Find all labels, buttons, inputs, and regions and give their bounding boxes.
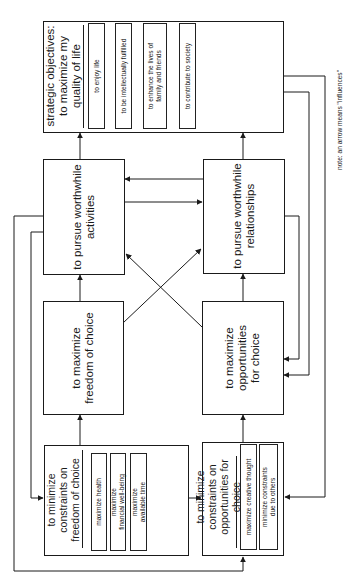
opportunities-for-choice-label: to maximize opportunities for choice (223, 301, 263, 415)
arrow-opportunities-to-activities (126, 254, 202, 327)
objective-enhance-lives-label: to enhance the lives of family and frien… (147, 26, 162, 126)
constraints-opportunities-title: to minimize constraints on opportunities… (194, 444, 242, 550)
relationships-label: to pursue worthwhile relationships (231, 158, 257, 274)
constraint-financial-wellbeing-label: maximize financial well-being (110, 455, 125, 549)
activities-label: to pursue worthwhile activities (71, 159, 97, 275)
arrow-activities-to-constraints-freedom (31, 232, 43, 498)
arrow-relationships-to-opportunities (284, 216, 299, 359)
arrow-strategic-to-opportunities (283, 92, 309, 375)
constraint-available-time-label: maximize available time (131, 455, 146, 549)
constraint-maximize-health-label: maximize health (95, 455, 103, 549)
constraint-due-to-others-label: minimize constraints due to others (261, 446, 276, 548)
strategic-objectives-title: strategic objectives: to maximize my qua… (44, 24, 84, 128)
freedom-of-choice-label: to maximize freedom of choice (70, 301, 96, 415)
constraints-freedom-separator (82, 450, 83, 548)
objective-enjoy-life-label: to enjoy life (93, 26, 101, 126)
arrow-strategic-to-constraints-opportunities (283, 76, 325, 497)
arrow-freedom-to-relationships (123, 249, 201, 323)
objective-contribute-society-label: to contribute to society (184, 26, 192, 126)
objective-intellectually-fulfilled-label: to be intellectually fulfilled (120, 26, 128, 126)
constraints-opportunities-separator (236, 456, 237, 548)
constraint-creative-thought-label: maximize creative thought (245, 446, 253, 548)
strategic-separator (83, 25, 84, 128)
constraints-freedom-title: to minimize constraints on freedom of ch… (45, 448, 81, 552)
legend-note: note: an arrow means "influences" (336, 40, 344, 200)
